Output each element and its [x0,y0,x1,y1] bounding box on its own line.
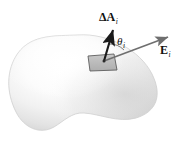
physics-figure-gauss-flux: ΔAi Ei θi [0,0,186,160]
patch-quad [88,54,117,71]
delta-area-symbol: ΔA [99,10,115,24]
angle-theta-label: θi [117,36,125,50]
theta-symbol: θ [117,35,122,47]
delta-area-subscript: i [116,17,118,26]
electric-field-vector-label: Ei [160,44,171,59]
vector-origin-dot [103,60,106,63]
electric-field-subscript: i [169,50,171,59]
electric-field-symbol: E [160,43,168,57]
delta-area-vector-label: ΔAi [99,11,118,26]
figure-canvas [0,0,186,160]
theta-subscript: i [123,41,125,50]
area-element-patch [88,54,117,71]
